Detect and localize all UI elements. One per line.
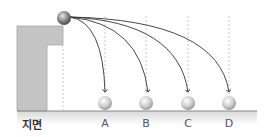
label-a: A [101,117,109,130]
ground-label: 지면 [22,116,42,132]
ground-shade [17,111,257,125]
label-d: D [225,117,233,130]
label-c: C [184,117,192,130]
start-ball [57,11,71,25]
cliff [17,26,63,111]
label-b: B [142,117,150,130]
landing-balls [98,96,236,110]
projectile-diagram: 지면 A B C D [0,0,275,137]
trajectories [70,17,229,92]
